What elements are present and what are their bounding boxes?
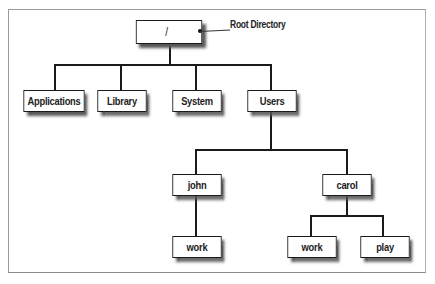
connector-applications <box>54 64 56 90</box>
connector-level2-bar <box>195 149 348 151</box>
node-root[interactable]: / <box>136 20 202 44</box>
node-carol-work-label: work <box>302 241 323 253</box>
connector-carol-play <box>382 215 384 237</box>
connector-level3-bar <box>310 215 383 217</box>
node-system[interactable]: System <box>172 90 221 112</box>
callout-root-directory: Root Directory <box>230 19 285 30</box>
node-root-label: / <box>165 25 168 39</box>
connector-root-down <box>169 43 171 65</box>
node-carol[interactable]: carol <box>322 174 371 196</box>
connector-system <box>195 64 197 90</box>
node-applications-label: Applications <box>27 95 80 107</box>
node-users-label: Users <box>260 95 285 107</box>
node-library[interactable]: Library <box>97 90 146 112</box>
node-carol-play-label: play <box>376 241 394 253</box>
node-system-label: System <box>181 95 213 107</box>
node-carol-label: carol <box>336 179 357 191</box>
connector-level1-bar <box>54 64 271 66</box>
node-applications[interactable]: Applications <box>23 90 84 112</box>
connector-users-down <box>270 112 272 150</box>
connector-carol <box>346 149 348 175</box>
connector-carol-down <box>346 194 348 216</box>
connector-john <box>195 149 197 175</box>
node-carol-work[interactable]: work <box>287 236 336 258</box>
diagram-frame <box>8 9 426 273</box>
connector-carol-work <box>310 215 312 237</box>
node-users[interactable]: Users <box>247 90 296 112</box>
node-library-label: Library <box>107 95 137 107</box>
node-john-work[interactable]: work <box>172 236 221 258</box>
node-john-label: john <box>188 179 207 191</box>
connector-library <box>120 64 122 90</box>
connector-john-down <box>195 194 197 236</box>
connector-users <box>270 64 272 90</box>
node-carol-play[interactable]: play <box>360 236 409 258</box>
node-john[interactable]: john <box>172 174 221 196</box>
node-john-work-label: work <box>187 241 208 253</box>
